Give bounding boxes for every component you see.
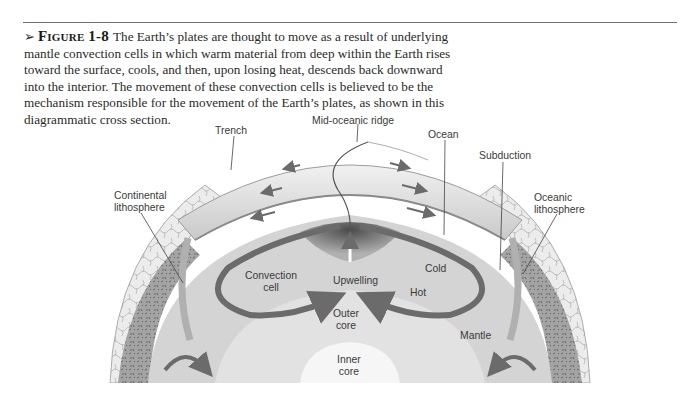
label-continental-lithosphere: Continental lithosphere [114, 190, 167, 214]
label-mid-oceanic-ridge: Mid-oceanic ridge [312, 115, 394, 127]
label-hot: Hot [410, 287, 426, 299]
label-subduction: Subduction [479, 150, 531, 162]
label-outer-core: Outer core [333, 308, 359, 332]
label-cold: Cold [425, 263, 446, 275]
label-inner-core: Inner core [337, 354, 361, 378]
label-upwelling: Upwelling [333, 275, 378, 287]
label-trench: Trench [215, 125, 247, 137]
label-ocean: Ocean [428, 129, 459, 141]
label-convection-cell: Convection cell [245, 270, 297, 294]
earth-cross-section-diagram [0, 0, 699, 407]
label-mantle: Mantle [460, 330, 491, 342]
label-oceanic-lithosphere: Oceanic lithosphere [534, 192, 585, 216]
